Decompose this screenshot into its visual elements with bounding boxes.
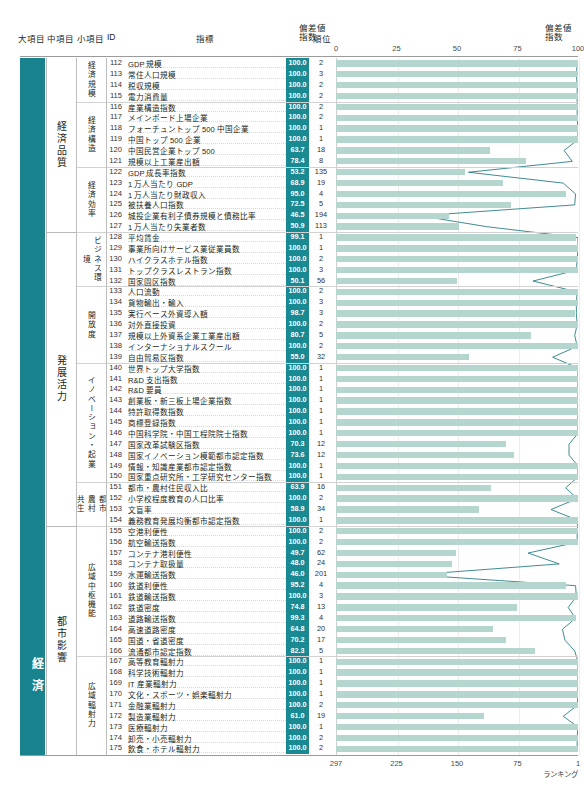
- row-deviation-badge: 48.0: [286, 558, 309, 569]
- row-id: 165: [106, 635, 122, 644]
- row-indicator-name: 空港利便性: [128, 526, 168, 537]
- bottom-axis-tick: 75: [513, 759, 521, 768]
- row-id: 150: [106, 471, 122, 480]
- row-rank: 3: [311, 69, 331, 78]
- row-bar: [336, 169, 465, 175]
- row-bar: [336, 495, 578, 501]
- row-bar: [336, 202, 511, 208]
- row-rank: 3: [311, 591, 331, 600]
- mid-category-cell: 発展活力: [46, 232, 76, 526]
- row-rank: 1: [311, 374, 331, 383]
- row-rank: 135: [311, 167, 331, 176]
- row-bar: [336, 300, 578, 306]
- row-deviation-badge: 70.3: [286, 439, 309, 450]
- small-category-divider: [76, 363, 578, 364]
- small-category-label: 広域輻射力: [86, 682, 97, 729]
- row-deviation-badge: 100.0: [286, 319, 309, 330]
- row-deviation-badge: 100.0: [286, 722, 309, 733]
- row-id: 117: [106, 112, 122, 121]
- row-indicator-name: R&D 支出指数: [128, 374, 178, 385]
- row-id: 126: [106, 210, 122, 219]
- row-id: 119: [106, 134, 122, 143]
- header-deviation-right-line2: 指数: [545, 33, 563, 42]
- row-rank: 1: [311, 471, 331, 480]
- row-rank: 5: [311, 199, 331, 208]
- row-bar: [336, 702, 578, 708]
- chart-page: 大項目 中項目 小項目 ID 指標 偏差値 指数 順位 偏差値 指数 02550…: [0, 0, 584, 794]
- row-rank: 1: [311, 232, 331, 241]
- small-category-divider: [76, 656, 578, 657]
- header-indicator: 指標: [196, 32, 214, 44]
- row-indicator-name: R&D 要員: [128, 384, 162, 395]
- row-id: 133: [106, 286, 122, 295]
- row-indicator-name: 国家園区指数: [128, 276, 176, 287]
- row-id: 135: [106, 308, 122, 317]
- row-bar: [336, 724, 578, 730]
- row-id: 127: [106, 221, 122, 230]
- header-rank: 順位: [313, 32, 331, 44]
- row-rank: 4: [311, 189, 331, 198]
- row-bar: [336, 278, 457, 284]
- row-id: 132: [106, 276, 122, 285]
- row-bar: [336, 213, 449, 219]
- row-deviation-badge: 100.0: [286, 656, 309, 667]
- row-rank: 12: [311, 439, 331, 448]
- row-id: 156: [106, 537, 122, 546]
- row-rank: 32: [311, 352, 331, 361]
- row-indicator-name: 飲食・ホテル輻射力: [128, 743, 200, 754]
- row-rank: 2: [311, 102, 331, 111]
- column-divider: [76, 58, 77, 755]
- row-id: 168: [106, 667, 122, 676]
- row-rank: 1: [311, 384, 331, 393]
- row-id: 116: [106, 102, 122, 111]
- row-bar: [336, 539, 578, 545]
- row-id: 134: [106, 297, 122, 306]
- small-category-label: 開放度: [86, 311, 97, 339]
- row-deviation-badge: 64.8: [286, 624, 309, 635]
- row-deviation-badge: 99.3: [286, 613, 309, 624]
- row-bar: [336, 71, 578, 77]
- row-id: 130: [106, 254, 122, 263]
- row-deviation-badge: 100.0: [286, 471, 309, 482]
- small-category-divider: [76, 482, 578, 483]
- row-id: 146: [106, 428, 122, 437]
- row-rank: 3: [311, 297, 331, 306]
- row-bar: [336, 680, 578, 686]
- row-bar: [336, 387, 578, 393]
- row-bar: [336, 365, 578, 371]
- row-bar: [336, 191, 566, 197]
- small-category-divider: [76, 286, 578, 287]
- bottom-axis: ランキング 297225150751: [0, 757, 584, 777]
- row-rank: 16: [311, 482, 331, 491]
- small-category-cell: 共生農村都市: [76, 482, 106, 526]
- row-deviation-badge: 58.9: [286, 504, 309, 515]
- row-indicator-name: 平均賃金: [128, 232, 160, 243]
- row-deviation-badge: 72.5: [286, 199, 309, 210]
- row-bar: [336, 593, 578, 599]
- row-indicator-name: インターナショナルスクール: [128, 341, 232, 352]
- row-deviation-badge: 63.7: [286, 145, 309, 156]
- row-bar: [336, 572, 447, 578]
- row-deviation-badge: 95.0: [286, 189, 309, 200]
- row-indicator-name: 国家イノベーション模範都市認定指数: [128, 450, 264, 461]
- small-category-cell: 広域中枢機能: [76, 526, 106, 657]
- row-rank: 2: [311, 743, 331, 752]
- row-id: 166: [106, 646, 122, 655]
- row-rank: 5: [311, 646, 331, 655]
- top-axis-tick: 100: [572, 44, 584, 53]
- row-deviation-badge: 100.0: [286, 700, 309, 711]
- row-deviation-badge: 53.2: [286, 167, 309, 178]
- row-deviation-badge: 100.0: [286, 374, 309, 385]
- row-bar: [336, 561, 452, 567]
- row-bar: [336, 691, 578, 697]
- row-id: 113: [106, 69, 122, 78]
- small-category-cell: 経済効率: [76, 167, 106, 232]
- bottom-axis-tick: 225: [390, 759, 403, 768]
- row-rank: 19: [311, 711, 331, 720]
- row-rank: 2: [311, 700, 331, 709]
- row-indicator-name: 高速道路密度: [128, 624, 176, 635]
- row-deviation-badge: 100.0: [286, 80, 309, 91]
- row-deviation-badge: 46.0: [286, 569, 309, 580]
- row-indicator-name: 自由貿易区指数: [128, 352, 184, 363]
- row-id: 171: [106, 700, 122, 709]
